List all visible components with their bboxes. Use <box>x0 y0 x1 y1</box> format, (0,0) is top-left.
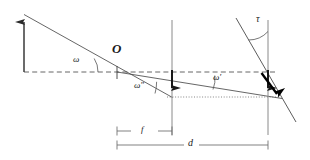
optics-figure: ω O ω″ ω′ τ f d <box>0 0 310 160</box>
label-angle-omega-prime: ω′ <box>213 73 221 82</box>
label-dimension-f: f <box>141 125 144 134</box>
angle-arc-tau <box>249 32 269 41</box>
angle-arc-omega <box>94 59 98 73</box>
chief-ray-incoming <box>24 15 173 98</box>
label-angle-tau: τ <box>256 14 260 24</box>
label-angle-omega: ω <box>73 55 79 64</box>
figure-canvas <box>0 0 310 160</box>
label-optical-center-O: O <box>112 42 121 55</box>
label-dimension-d: d <box>188 138 193 148</box>
label-angle-omega-double-prime: ω″ <box>134 81 144 90</box>
dimension-f <box>117 127 172 136</box>
